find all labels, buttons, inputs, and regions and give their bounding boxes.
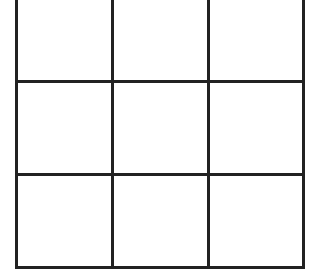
cell-2-2[interactable] <box>210 176 302 266</box>
board-bottom-border <box>15 266 305 269</box>
cell-mark <box>210 83 302 173</box>
cell-0-1[interactable] <box>114 0 207 80</box>
cell-1-1[interactable] <box>114 83 207 173</box>
cell-0-2[interactable] <box>210 0 302 80</box>
cell-mark <box>18 176 111 266</box>
cell-1-0[interactable] <box>18 83 111 173</box>
cell-mark <box>114 83 207 173</box>
board-right-border <box>302 0 305 269</box>
cell-2-0[interactable] <box>18 176 111 266</box>
tic-tac-toe-board <box>15 0 305 269</box>
cell-mark <box>210 0 302 80</box>
cell-1-2[interactable] <box>210 83 302 173</box>
cell-2-1[interactable] <box>114 176 207 266</box>
cell-mark <box>114 0 207 80</box>
cell-0-0[interactable] <box>18 0 111 80</box>
cell-mark <box>18 0 111 80</box>
cell-mark <box>210 176 302 266</box>
cell-mark <box>114 176 207 266</box>
cell-mark <box>18 83 111 173</box>
